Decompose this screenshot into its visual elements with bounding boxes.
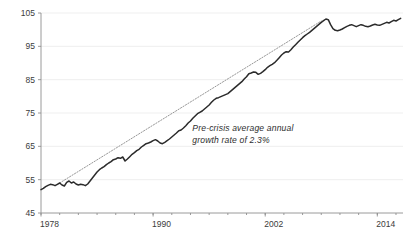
annotation-line-2: growth rate of 2.3%	[192, 135, 270, 145]
y-tick-label-55: 55	[26, 175, 36, 185]
y-tick-label-95: 95	[26, 41, 36, 51]
y-tick-label-65: 65	[26, 141, 36, 151]
x-tick-label-2014: 2014	[376, 219, 395, 229]
y-tick-label-45: 45	[26, 208, 36, 218]
annotation-line-1: Pre-crisis average annual	[192, 123, 294, 133]
y-tick-label-75: 75	[26, 108, 36, 118]
x-tick-label-1978: 1978	[40, 219, 59, 229]
chart-container: 455565758595105 1978199020022014 Pre-cri…	[0, 0, 407, 241]
y-tick-label-85: 85	[26, 75, 36, 85]
line-chart: 455565758595105 1978199020022014 Pre-cri…	[0, 0, 407, 241]
x-tick-label-2002: 2002	[264, 219, 283, 229]
x-tick-label-1990: 1990	[152, 219, 171, 229]
y-tick-label-105: 105	[21, 8, 35, 18]
chart-background	[0, 0, 407, 241]
